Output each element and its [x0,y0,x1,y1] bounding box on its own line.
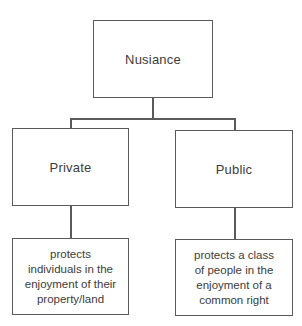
connector-private-to-description [70,206,72,238]
node-public-label: Public [216,162,253,177]
public-description-line: common right [194,293,274,308]
public-description-line: enjoyment of a [194,278,274,293]
private-description-line: protects [25,247,116,262]
private-description-line: individuals in the [25,262,116,277]
node-nuisance-label: Nusiance [125,52,181,67]
public-description-line: protects a class [194,248,274,263]
public-description-line: of people in the [194,263,274,278]
private-description-line: enjoyment of their [25,277,116,292]
connector-branch-to-private [70,118,72,128]
private-description-line: property/land [25,292,116,307]
public-description-text: protects a class of people in the enjoym… [190,248,278,308]
connector-root-to-branch [152,98,154,119]
connector-branch-horizontal [70,118,235,120]
connector-public-to-description [234,208,236,239]
node-public-description: protects a class of people in the enjoym… [175,239,293,316]
node-private-label: Private [50,160,92,175]
connector-branch-to-public [234,118,236,130]
private-description-text: protects individuals in the enjoyment of… [21,247,120,307]
node-public: Public [175,130,293,208]
node-private: Private [12,128,129,206]
node-private-description: protects individuals in the enjoyment of… [12,238,129,315]
node-nuisance: Nusiance [93,20,213,98]
